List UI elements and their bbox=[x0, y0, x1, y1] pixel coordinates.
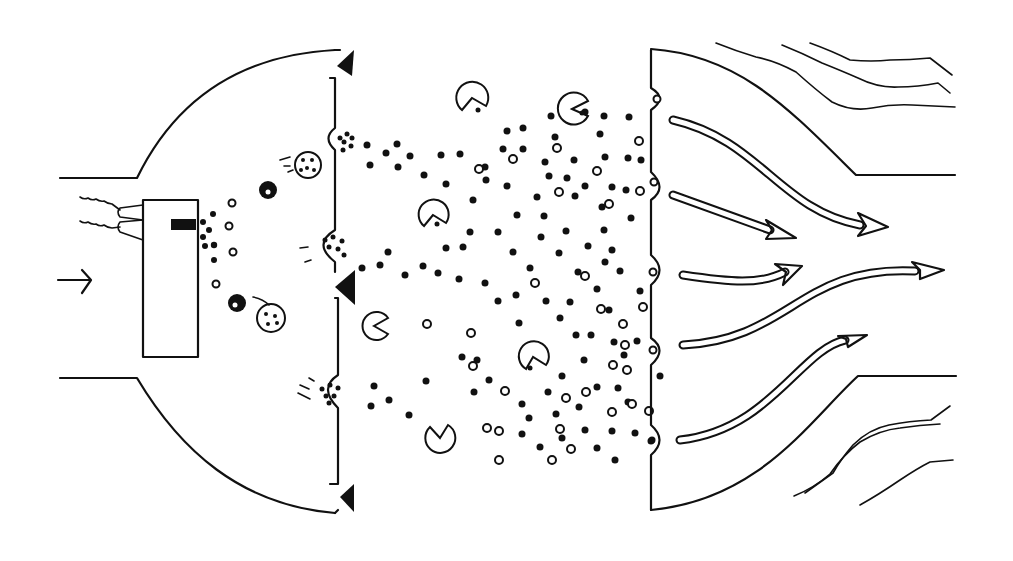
flow-arrow-upper-short bbox=[673, 195, 796, 239]
microbe-cells bbox=[228, 152, 321, 332]
injected-particles bbox=[200, 200, 237, 288]
flow-arrow-middle-long bbox=[683, 262, 944, 345]
flow-arrow-middle-short bbox=[683, 264, 802, 285]
outlet-membrane bbox=[649, 50, 661, 510]
diagram-canvas bbox=[0, 0, 1013, 561]
pacman-4 bbox=[363, 312, 388, 340]
suspended-particles bbox=[359, 109, 664, 465]
inlet-membrane bbox=[324, 50, 356, 512]
inlet-arrow-icon bbox=[58, 270, 91, 293]
triangle-marker-top bbox=[337, 50, 354, 76]
outflow-arrows bbox=[673, 120, 944, 440]
pacman-6 bbox=[425, 425, 455, 453]
pacman-3 bbox=[419, 200, 449, 226]
injector-box bbox=[80, 197, 198, 357]
triangle-marker-bottom bbox=[340, 484, 354, 512]
pacman-5 bbox=[519, 341, 549, 369]
pacman-1 bbox=[456, 82, 488, 110]
inlet-housing bbox=[60, 50, 340, 513]
pacman-2 bbox=[558, 93, 588, 125]
flow-arrow-lower bbox=[680, 335, 867, 440]
flow-arrow-upper-long bbox=[673, 120, 888, 236]
filter-flow-diagram bbox=[0, 0, 1013, 561]
